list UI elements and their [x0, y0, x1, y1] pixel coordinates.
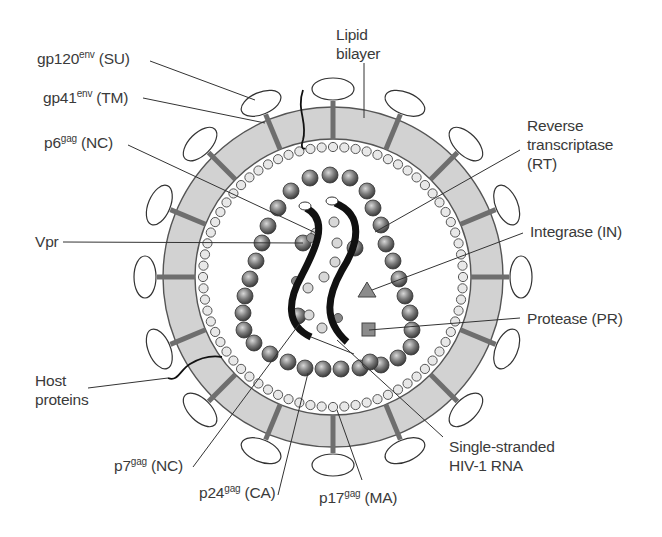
- label-reverse-transcriptase: Reverse transcriptase (RT): [527, 116, 613, 173]
- label-line: proteins: [35, 390, 89, 409]
- label-line: Lipid: [336, 25, 380, 44]
- label-suffix: (SU): [95, 50, 130, 67]
- label-text: Vpr: [35, 233, 59, 250]
- label-sup: gag: [344, 488, 360, 499]
- label-text: p17: [319, 489, 344, 506]
- label-line: Reverse: [527, 116, 613, 135]
- label-integrase: Integrase (IN): [530, 222, 622, 241]
- label-text: p7: [114, 457, 131, 474]
- label-sup: gag: [131, 456, 147, 467]
- label-sup: gag: [224, 483, 240, 494]
- label-text: gp120: [37, 50, 79, 67]
- label-suffix: (NC): [147, 457, 183, 474]
- label-p7: p7gag (NC): [114, 456, 183, 475]
- envelope-spikes: [134, 78, 532, 476]
- label-text: Integrase (IN): [530, 223, 622, 240]
- label-sup: env: [77, 88, 93, 99]
- label-line: (RT): [527, 154, 613, 173]
- label-host-proteins: Host proteins: [35, 371, 89, 409]
- label-p17: p17gag (MA): [319, 488, 397, 507]
- label-line: bilayer: [336, 44, 380, 63]
- label-suffix: (MA): [360, 489, 397, 506]
- label-suffix: (TM): [92, 89, 128, 106]
- label-line: Single-stranded: [449, 437, 555, 456]
- label-line: HIV-1 RNA: [449, 456, 555, 475]
- label-text: p24: [199, 484, 224, 501]
- hiv-virion-diagram: [0, 0, 662, 537]
- label-text: p6: [44, 134, 61, 151]
- label-suffix: (NC): [77, 134, 113, 151]
- label-text: Protease (PR): [527, 310, 623, 327]
- label-lipid-bilayer: Lipid bilayer: [336, 25, 380, 63]
- label-gp41: gp41env (TM): [43, 88, 128, 107]
- label-sup: gag: [61, 133, 77, 144]
- label-gp120: gp120env (SU): [37, 49, 130, 68]
- label-line: transcriptase: [527, 135, 613, 154]
- label-protease: Protease (PR): [527, 309, 623, 328]
- label-vpr: Vpr: [35, 232, 59, 251]
- label-text: gp41: [43, 89, 77, 106]
- label-p6: p6gag (NC): [44, 133, 113, 152]
- label-sup: env: [79, 49, 95, 60]
- label-line: Host: [35, 371, 89, 390]
- label-suffix: (CA): [240, 484, 275, 501]
- label-rna: Single-stranded HIV-1 RNA: [449, 437, 555, 475]
- label-p24: p24gag (CA): [199, 483, 276, 502]
